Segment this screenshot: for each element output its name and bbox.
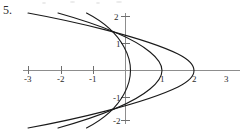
figure-container: 5. -3 -2 -1 1 2 3 [0, 0, 242, 131]
x-tick-label-1: 1 [160, 74, 165, 84]
axes-group [23, 13, 241, 124]
x-tick-labels: -3 -2 -1 1 2 3 [24, 74, 229, 84]
graph-svg: -3 -2 -1 1 2 3 2 1 -1 -2 [0, 0, 242, 131]
x-tick-label-2: 2 [192, 74, 197, 84]
y-tick-label--2: -2 [113, 116, 121, 126]
x-tick-label-3: 3 [224, 74, 229, 84]
x-tick-label--2: -2 [57, 74, 65, 84]
y-tick-label-2: 2 [114, 12, 119, 22]
x-tick-label--1: -1 [89, 74, 97, 84]
x-tick-label--3: -3 [24, 74, 32, 84]
y-tick-label-1: 1 [116, 39, 121, 49]
y-tick-label--1: -1 [113, 93, 121, 103]
